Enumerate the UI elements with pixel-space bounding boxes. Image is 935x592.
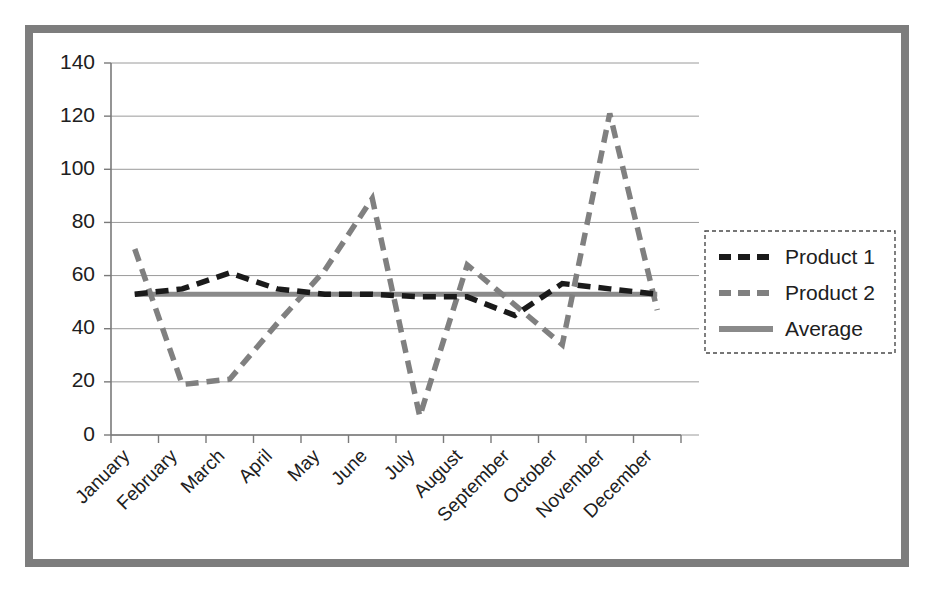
y-tick-label: 60 (72, 262, 95, 285)
y-tick-label: 100 (60, 156, 95, 179)
x-tick-label: April (234, 445, 276, 487)
y-tick-label: 20 (72, 368, 95, 391)
legend-entry-product-2: Product 2 (719, 281, 875, 304)
x-tick-label: May (283, 445, 324, 486)
line-chart: 020406080100120140 JanuaryFebruaryMarchA… (33, 33, 901, 559)
legend: Product 1 Product 2 Average (705, 231, 895, 353)
x-tick-label: July (380, 445, 419, 484)
x-tick-marks (111, 435, 681, 443)
legend-label-average: Average (785, 317, 863, 340)
legend-label-product-1: Product 1 (785, 245, 875, 268)
legend-entry-product-1: Product 1 (719, 245, 875, 268)
series-product-2 (135, 113, 658, 416)
y-tick-marks (104, 63, 111, 435)
y-tick-label: 80 (72, 209, 95, 232)
x-tick-label: March (176, 445, 228, 497)
y-tick-label: 0 (83, 422, 95, 445)
y-tick-label: 120 (60, 103, 95, 126)
legend-label-product-2: Product 2 (785, 281, 875, 304)
y-tick-label: 40 (72, 315, 95, 338)
y-tick-labels: 020406080100120140 (60, 50, 95, 445)
chart-frame: 020406080100120140 JanuaryFebruaryMarchA… (25, 25, 909, 567)
x-tick-labels: JanuaryFebruaryMarchAprilMayJuneJulyAugu… (71, 444, 657, 525)
x-tick-label: June (327, 445, 371, 489)
y-tick-label: 140 (60, 50, 95, 73)
legend-entry-average: Average (719, 317, 863, 340)
chart-inner: 020406080100120140 JanuaryFebruaryMarchA… (33, 33, 901, 559)
